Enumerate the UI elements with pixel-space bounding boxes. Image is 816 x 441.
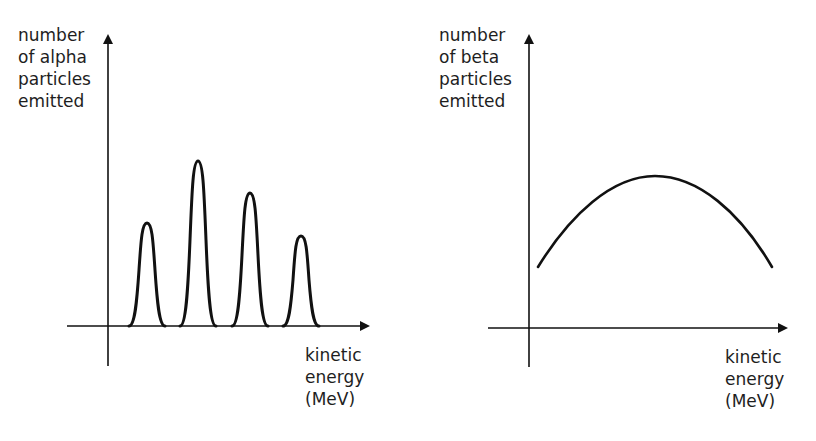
alpha-y-label-line-2: of alpha	[18, 46, 91, 68]
beta-x-label-line-1: kinetic	[725, 346, 784, 368]
alpha-chart	[67, 36, 368, 366]
beta-y-label-line-1: number	[439, 24, 512, 46]
alpha-y-label-line-3: particles	[18, 68, 91, 90]
beta-y-label-line-2: of beta	[439, 46, 512, 68]
alpha-y-axis-label: number of alpha particles emitted	[18, 24, 91, 112]
alpha-x-axis-label: kinetic energy (MeV)	[305, 344, 364, 410]
beta-y-label-line-4: emitted	[439, 90, 512, 112]
alpha-x-label-line-2: energy	[305, 366, 364, 388]
alpha-peak-3	[232, 193, 268, 326]
alpha-peaks	[129, 161, 319, 326]
figure-canvas	[0, 0, 816, 441]
alpha-x-label-line-3: (MeV)	[305, 388, 364, 410]
beta-chart	[488, 36, 786, 367]
alpha-x-label-line-1: kinetic	[305, 344, 364, 366]
beta-x-label-line-2: energy	[725, 368, 784, 390]
alpha-peak-2	[180, 161, 216, 326]
beta-curve	[538, 176, 772, 267]
beta-x-axis-label: kinetic energy (MeV)	[725, 346, 784, 412]
beta-x-label-line-3: (MeV)	[725, 390, 784, 412]
alpha-peak-4	[283, 236, 319, 326]
beta-y-label-line-3: particles	[439, 68, 512, 90]
beta-y-axis-label: number of beta particles emitted	[439, 24, 512, 112]
alpha-y-label-line-4: emitted	[18, 90, 91, 112]
alpha-y-label-line-1: number	[18, 24, 91, 46]
alpha-peak-1	[129, 223, 165, 326]
